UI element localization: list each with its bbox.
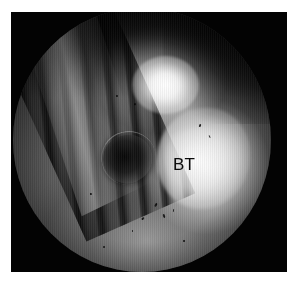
ridged-instrument-structure xyxy=(13,12,195,241)
circular-vignette xyxy=(13,12,271,272)
upper-right-shadow-region xyxy=(163,12,271,124)
debris-speck xyxy=(162,214,165,218)
specular-highlight xyxy=(132,56,199,114)
debris-speck xyxy=(209,135,211,138)
debris-speck xyxy=(90,193,92,196)
debris-speck xyxy=(154,203,158,207)
instrument-shaft-highlight xyxy=(26,12,152,216)
scanline-texture xyxy=(13,12,271,272)
debris-speck xyxy=(173,209,175,212)
debris-speck xyxy=(103,246,105,248)
bright-tissue-mass xyxy=(157,108,250,208)
figure-root: BT xyxy=(0,0,299,293)
debris-speck xyxy=(134,103,137,106)
debris-speck xyxy=(198,124,201,128)
dark-cavity-opening xyxy=(98,129,157,187)
upper-shadow-region xyxy=(13,12,271,98)
debris-speck xyxy=(116,95,118,97)
debris-speck xyxy=(183,240,185,242)
annotation-label-bt: BT xyxy=(173,156,195,173)
debris-speck xyxy=(132,230,134,232)
cavity-rim-highlight xyxy=(95,125,162,191)
debris-speck xyxy=(141,216,144,219)
photo-frame: BT xyxy=(11,12,287,272)
endoscopic-field-of-view: BT xyxy=(13,12,271,272)
